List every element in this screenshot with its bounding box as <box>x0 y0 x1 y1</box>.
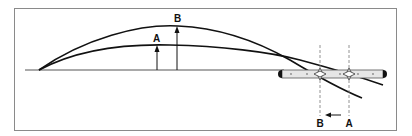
trajectory-b <box>39 26 362 98</box>
label-sight-a: A <box>346 118 353 129</box>
trajectory-a <box>39 45 383 85</box>
label-arrow-b: B <box>174 13 181 24</box>
sight-tube <box>278 70 387 78</box>
label-sight-b: B <box>317 118 324 129</box>
shift-arrow-icon <box>325 113 341 118</box>
trajectory-diagram: A B B A <box>0 0 412 136</box>
label-arrow-a: A <box>153 33 160 44</box>
height-arrow-a <box>155 45 160 70</box>
height-arrow-b <box>175 26 180 70</box>
